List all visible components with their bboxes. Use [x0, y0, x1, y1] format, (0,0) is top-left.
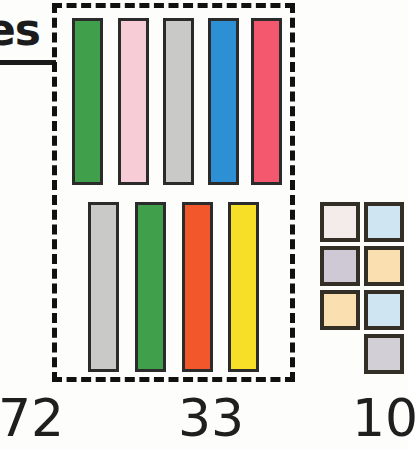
count-left: 72: [0, 392, 64, 444]
chip-light-blue: [364, 202, 404, 242]
bar-gray: [163, 18, 194, 185]
chip-pale-pink: [320, 202, 360, 242]
bar-gray: [88, 202, 119, 372]
bar-orange: [182, 202, 213, 372]
count-right: 10: [352, 392, 418, 444]
heading-partial-text: es: [0, 8, 40, 52]
bar-green: [135, 202, 166, 372]
bar-blue: [208, 18, 239, 185]
count-center: 33: [178, 392, 244, 444]
chip-lavender: [320, 246, 360, 286]
bar-green: [72, 18, 103, 185]
bar-pink: [118, 18, 149, 185]
chip-peach-2: [320, 290, 360, 330]
bar-red: [251, 18, 282, 185]
heading-underline-rule: [0, 60, 56, 65]
bar-yellow: [228, 202, 259, 372]
chip-peach: [364, 246, 404, 286]
chip-gray: [364, 334, 404, 374]
chip-light-blue-2: [364, 290, 404, 330]
